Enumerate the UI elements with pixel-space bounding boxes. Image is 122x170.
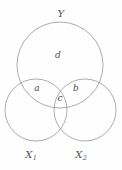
label-set-x1-base: X (25, 149, 32, 160)
circle-set-x2 (54, 79, 116, 141)
label-region-b: b (73, 84, 79, 93)
venn-diagram-canvas (0, 0, 122, 170)
label-region-a: a (34, 84, 40, 93)
label-set-x2-base: X (75, 149, 82, 160)
label-region-d: d (55, 51, 61, 60)
label-set-x2-subscript: 2 (83, 154, 87, 162)
label-set-x2: X2 (75, 150, 87, 160)
label-set-x1-subscript: 1 (33, 154, 37, 162)
venn-diagram-figure: Y d a b c X1 X2 (0, 0, 122, 170)
label-set-y: Y (58, 9, 65, 19)
label-region-c: c (57, 94, 62, 103)
label-set-x1: X1 (25, 150, 37, 160)
